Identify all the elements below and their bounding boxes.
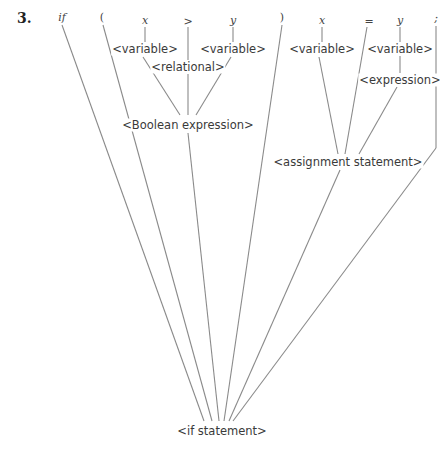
node-variable-x-assign: <variable>: [288, 43, 356, 56]
token-rparen: ): [280, 11, 284, 24]
token-x-condition: x: [142, 14, 148, 27]
token-lparen: (: [100, 11, 104, 24]
tree-edge: [229, 170, 340, 421]
tree-edge: [103, 25, 212, 421]
token-greater-than: >: [183, 15, 192, 28]
token-x-assign: x: [319, 14, 325, 27]
node-variable-y-assign: <variable>: [366, 43, 434, 56]
node-boolean-expression: <Boolean expression>: [121, 119, 255, 132]
parse-tree-diagram: 3. if ( x > y ) x = y ; <variable> <vari…: [0, 0, 445, 449]
tree-edge: [233, 148, 436, 421]
tree-edge: [319, 57, 338, 154]
token-equals: =: [364, 15, 373, 28]
problem-number: 3.: [17, 10, 32, 26]
node-relational: <relational>: [150, 61, 225, 74]
tree-edge: [62, 25, 204, 421]
token-y-assign: y: [397, 14, 403, 27]
token-y-condition: y: [230, 14, 236, 27]
node-variable-x: <variable>: [111, 43, 179, 56]
node-variable-y: <variable>: [199, 43, 267, 56]
node-if-statement: <if statement>: [176, 425, 267, 438]
tree-edge: [188, 133, 219, 421]
tree-edge: [359, 87, 397, 154]
token-if: if: [58, 11, 66, 24]
node-assignment-statement: <assignment statement>: [272, 156, 423, 169]
node-expression: <expression>: [358, 74, 441, 87]
token-semicolon: ;: [434, 12, 438, 25]
tree-edge: [224, 25, 282, 421]
